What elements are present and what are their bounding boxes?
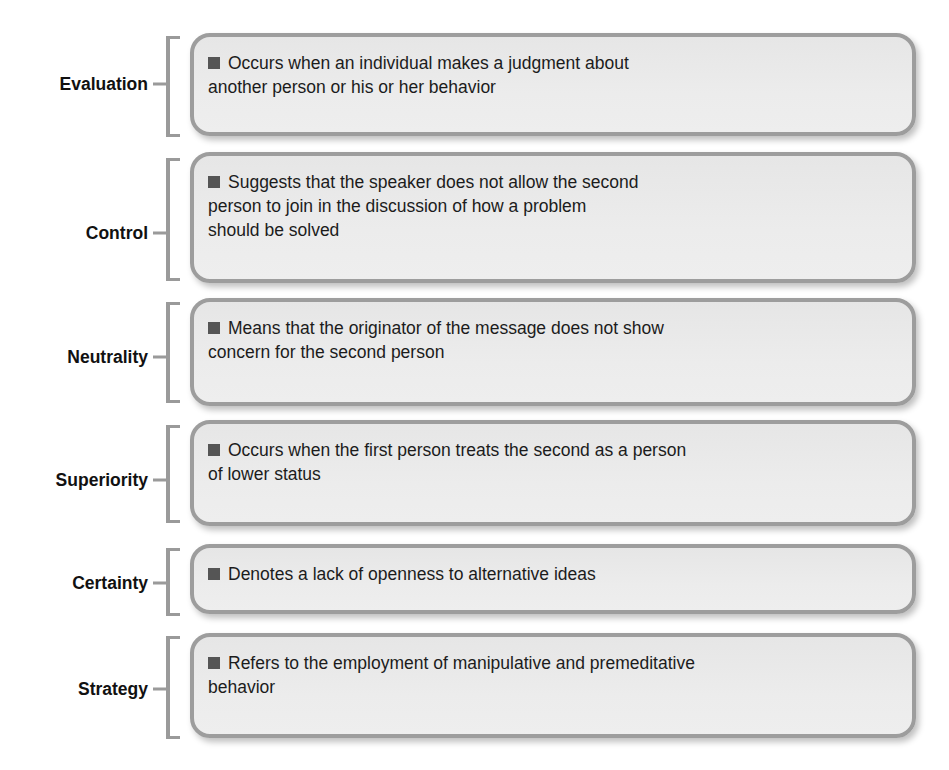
connector-line xyxy=(153,582,166,585)
definition-box-strategy: Refers to the employment of manipulative… xyxy=(190,633,916,738)
bracket xyxy=(166,158,180,281)
definition-text: Refers to the employment of manipulative… xyxy=(208,651,872,699)
bracket xyxy=(166,425,180,523)
definition-box-neutrality: Means that the originator of the message… xyxy=(190,298,916,406)
definition-line: of lower status xyxy=(208,464,321,484)
definition-line: Denotes a lack of openness to alternativ… xyxy=(228,564,596,584)
definition-line: should be solved xyxy=(208,220,339,240)
square-bullet-icon xyxy=(208,57,220,69)
definition-line: concern for the second person xyxy=(208,342,444,362)
label-evaluation: Evaluation xyxy=(60,74,149,95)
definition-box-evaluation: Occurs when an individual makes a judgme… xyxy=(190,33,916,136)
square-bullet-icon xyxy=(208,568,220,580)
label-strategy: Strategy xyxy=(78,679,148,700)
definition-line: Occurs when the first person treats the … xyxy=(228,440,686,460)
connector-line xyxy=(153,83,166,86)
definition-text: Suggests that the speaker does not allow… xyxy=(208,170,872,242)
connector-line xyxy=(153,232,166,235)
bracket xyxy=(166,302,180,403)
definition-line: behavior xyxy=(208,677,275,697)
label-certainty: Certainty xyxy=(72,573,148,594)
definition-line: Occurs when an individual makes a judgme… xyxy=(228,53,629,73)
bracket xyxy=(166,636,180,739)
label-superiority: Superiority xyxy=(56,470,148,491)
connector-line xyxy=(153,356,166,359)
cropped-heading-remnant xyxy=(0,0,949,6)
definition-box-certainty: Denotes a lack of openness to alternativ… xyxy=(190,544,916,614)
definition-line: person to join in the discussion of how … xyxy=(208,196,586,216)
definition-line: Refers to the employment of manipulative… xyxy=(228,653,695,673)
square-bullet-icon xyxy=(208,657,220,669)
definition-line: Means that the originator of the message… xyxy=(228,318,664,338)
label-control: Control xyxy=(86,223,148,244)
square-bullet-icon xyxy=(208,444,220,456)
definition-text: Occurs when the first person treats the … xyxy=(208,438,872,486)
bracket xyxy=(166,36,180,137)
definition-text: Denotes a lack of openness to alternativ… xyxy=(208,562,872,586)
definition-line: Suggests that the speaker does not allow… xyxy=(228,172,639,192)
definition-line: another person or his or her behavior xyxy=(208,77,496,97)
connector-line xyxy=(153,688,166,691)
square-bullet-icon xyxy=(208,322,220,334)
square-bullet-icon xyxy=(208,176,220,188)
definition-box-control: Suggests that the speaker does not allow… xyxy=(190,152,916,283)
definition-text: Occurs when an individual makes a judgme… xyxy=(208,51,872,99)
connector-line xyxy=(153,479,166,482)
definition-text: Means that the originator of the message… xyxy=(208,316,872,364)
definition-box-superiority: Occurs when the first person treats the … xyxy=(190,420,916,526)
bracket xyxy=(166,548,180,616)
label-neutrality: Neutrality xyxy=(67,347,148,368)
